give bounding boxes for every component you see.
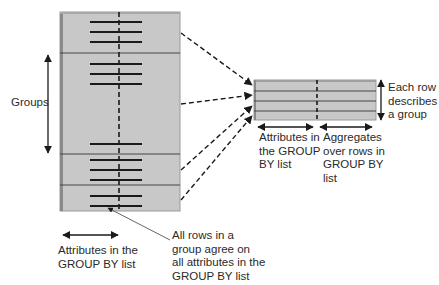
- groups-label: Groups: [11, 96, 49, 110]
- left-attributes-label: Attributes in the GROUP BY list: [58, 244, 138, 271]
- output-table: [254, 80, 376, 120]
- mapping-arrows: [181, 33, 252, 200]
- right-aggregates-label: Aggregates over rows in GROUP BY list: [323, 131, 385, 185]
- input-table: [60, 12, 180, 211]
- agree-label: All rows in a group agree on all attribu…: [172, 229, 265, 283]
- right-attributes-label: Attributes in the GROUP BY list: [259, 131, 320, 172]
- each-row-label: Each row describes a group: [388, 81, 437, 122]
